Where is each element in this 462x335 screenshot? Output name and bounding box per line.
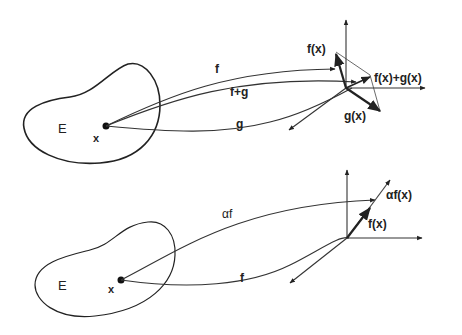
point-x-label-bottom: x <box>108 283 115 295</box>
curve-f <box>106 69 335 126</box>
curve-g-label: g <box>236 117 243 131</box>
curve-f-label-bottom: f <box>240 271 245 285</box>
vector-sum-label: f(x)+g(x) <box>374 71 422 85</box>
diagram-canvas: E x f f+g g f(x) g(x) f(x)+g(x) E x <box>0 0 462 335</box>
vector-fx-label-bottom: f(x) <box>368 217 387 231</box>
vector-fx <box>336 54 346 88</box>
set-e-label: E <box>58 121 67 136</box>
vector-sum <box>346 77 370 88</box>
vector-fx-bottom <box>347 208 370 238</box>
vector-alpha-fx-label: αf(x) <box>386 188 412 202</box>
set-e-blob-bottom <box>35 222 175 317</box>
vector-fx-label: f(x) <box>307 42 326 56</box>
curve-alpha-f-label: αf <box>222 207 233 221</box>
curve-f-plus-g-label: f+g <box>230 85 248 99</box>
vector-gx-label: g(x) <box>344 109 366 123</box>
curve-f-label: f <box>215 62 220 76</box>
set-e-label-bottom: E <box>58 278 67 293</box>
top-z-axis <box>289 88 346 130</box>
top-panel: E x f f+g g f(x) g(x) f(x)+g(x) <box>24 20 425 163</box>
bottom-panel: E x αf f f(x) αf(x) <box>35 170 422 317</box>
point-x-label: x <box>93 132 100 144</box>
